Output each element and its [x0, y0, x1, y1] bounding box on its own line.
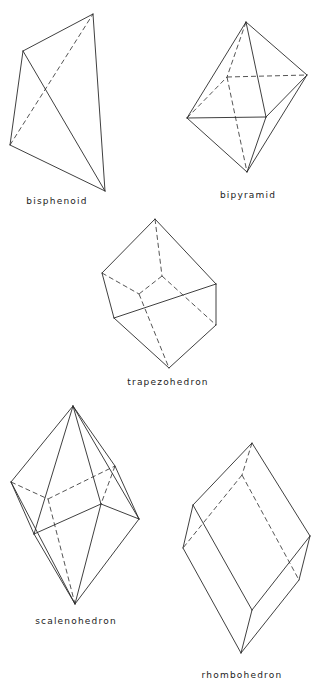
- visible-edge: [252, 443, 310, 536]
- hidden-edge: [48, 499, 75, 604]
- label-bisphenoid: bisphenoid: [26, 196, 87, 206]
- visible-edge: [187, 22, 246, 118]
- hidden-edge: [139, 276, 162, 294]
- label-trapezohedron: trapezohedron: [127, 377, 209, 387]
- hidden-edge: [155, 219, 162, 276]
- visible-edge: [155, 219, 216, 284]
- visible-edge: [266, 75, 307, 117]
- hidden-edge: [101, 466, 115, 504]
- visible-edge: [183, 548, 241, 653]
- crystal-rhombohedron: [183, 443, 310, 653]
- visible-edge: [102, 273, 114, 318]
- crystal-bisphenoid: [10, 14, 105, 191]
- visible-edge: [193, 443, 252, 505]
- visible-edge: [34, 504, 101, 534]
- visible-edge: [10, 145, 105, 191]
- visible-edge: [183, 505, 193, 548]
- visible-edge: [75, 504, 101, 604]
- crystal-trapezohedron: [102, 219, 216, 368]
- visible-edge: [73, 406, 101, 504]
- visible-edge: [187, 118, 247, 172]
- crystal-forms-diagram: [0, 0, 320, 685]
- hidden-edge: [187, 77, 227, 118]
- visible-edge: [241, 580, 299, 653]
- hidden-edge: [227, 75, 307, 77]
- visible-edge: [11, 482, 75, 604]
- hidden-edge: [10, 14, 93, 145]
- visible-edge: [102, 219, 155, 273]
- visible-edge: [10, 51, 23, 145]
- visible-edge: [247, 75, 307, 172]
- visible-edge: [23, 14, 93, 51]
- visible-edge: [11, 482, 34, 534]
- visible-edge: [193, 505, 252, 610]
- hidden-edge: [227, 77, 247, 172]
- visible-edge: [73, 406, 115, 466]
- crystal-scalenohedron: [11, 406, 139, 604]
- visible-edge: [247, 117, 266, 172]
- visible-edge: [75, 519, 139, 604]
- visible-edge: [73, 406, 139, 519]
- visible-edge: [34, 534, 75, 604]
- visible-edge: [187, 117, 266, 118]
- crystal-bipyramid: [187, 22, 307, 172]
- hidden-edge: [242, 475, 299, 580]
- hidden-edge: [102, 273, 139, 294]
- visible-edge: [93, 14, 105, 191]
- hidden-edge: [162, 276, 216, 325]
- hidden-edge: [48, 466, 115, 499]
- visible-edge: [11, 406, 73, 482]
- visible-edge: [23, 51, 105, 191]
- label-bipyramid: bipyramid: [220, 190, 276, 200]
- visible-edge: [169, 325, 216, 368]
- hidden-edge: [11, 482, 48, 499]
- label-rhombohedron: rhombohedron: [202, 670, 283, 680]
- hidden-edge: [227, 22, 246, 77]
- visible-edge: [114, 284, 216, 318]
- visible-edge: [34, 406, 73, 534]
- visible-edge: [114, 318, 169, 368]
- label-scalenohedron: scalenohedron: [35, 616, 117, 626]
